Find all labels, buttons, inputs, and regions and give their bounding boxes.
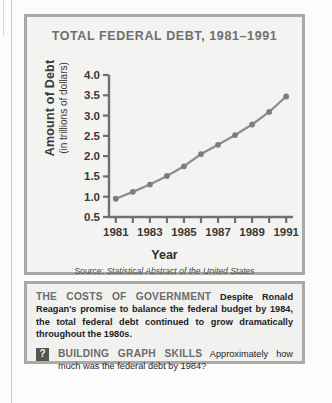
chart-panel: TOTAL FEDERAL DEBT, 1981–1991 Amount of … — [24, 14, 305, 275]
page-margin-rule — [11, 0, 12, 403]
question-row: ? BUILDING GRAPH SKILLS Approximately ho… — [36, 348, 293, 373]
question-mark-icon: ? — [36, 348, 49, 361]
source-prefix: Source: — [74, 266, 104, 276]
question-heading: BUILDING GRAPH SKILLS — [58, 348, 202, 359]
caption-paragraph: THE COSTS OF GOVERNMENT Despite Ronald R… — [36, 291, 293, 341]
page-background: TOTAL FEDERAL DEBT, 1981–1991 Amount of … — [0, 0, 332, 403]
caption-panel: THE COSTS OF GOVERNMENT Despite Ronald R… — [24, 281, 305, 364]
source-text: Statistical Abstract of the United State… — [106, 266, 254, 276]
page-margin-rule-secondary — [3, 0, 4, 36]
plot-area: Amount of Debt (in trillions of dollars)… — [27, 17, 302, 272]
x-axis-label: Year — [27, 248, 302, 262]
question-text-wrap: BUILDING GRAPH SKILLS Approximately how … — [58, 348, 293, 373]
chart-source: Source: Statistical Abstract of the Unit… — [27, 266, 302, 276]
chart-plot-svg — [27, 17, 302, 272]
caption-heading: THE COSTS OF GOVERNMENT — [36, 291, 211, 302]
